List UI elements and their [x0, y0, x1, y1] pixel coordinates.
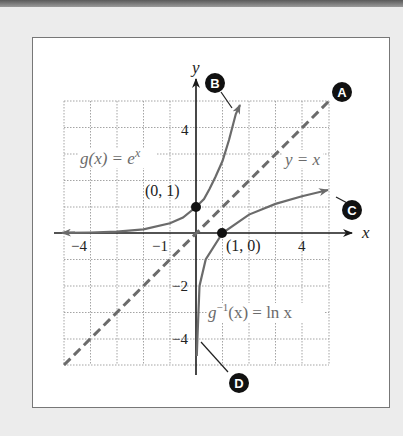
x-tick-4: 4	[298, 238, 306, 254]
point-1-0-label: (1, 0)	[226, 237, 261, 255]
svg-text:A: A	[337, 85, 347, 100]
svg-text:C: C	[347, 203, 357, 218]
callout-a: A	[332, 82, 352, 102]
y-tick-4: 4	[181, 122, 189, 138]
y-axis-label: y	[190, 58, 200, 77]
callout-c: C	[342, 200, 362, 220]
svg-text:D: D	[234, 376, 243, 391]
x-tick-neg1: −1	[152, 238, 168, 254]
y-tick-neg4: −4	[172, 331, 188, 347]
callout-d: D	[229, 373, 249, 393]
svg-text:B: B	[210, 76, 219, 91]
callout-b: B	[205, 73, 225, 93]
exp-label: g(x) = ex	[80, 146, 141, 168]
x-tick-neg4: −4	[71, 238, 87, 254]
graph: x y (0, 1) (1, 0) −4 −1 4 4 −2 −4 g(x) =…	[0, 0, 403, 436]
point-0-1-label: (0, 1)	[145, 182, 180, 200]
point-0-1	[191, 202, 201, 212]
y-tick-neg2: −2	[172, 278, 188, 294]
x-axis-label: x	[361, 223, 370, 242]
identity-label: y = x	[283, 150, 321, 169]
exp-curve	[64, 105, 240, 233]
